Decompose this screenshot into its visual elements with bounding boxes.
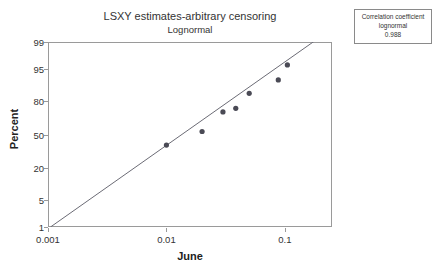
correlation-value: 0.988	[357, 31, 429, 40]
y-tick-mark	[44, 168, 48, 169]
y-tick-label: 5	[10, 194, 44, 205]
data-point	[199, 129, 204, 134]
probability-plot-page: LSXY estimates-arbitrary censoring Logno…	[0, 0, 443, 277]
y-tick-mark	[44, 101, 48, 102]
correlation-distribution: lognormal	[357, 22, 429, 31]
chart-subtitle: Lognormal	[48, 24, 332, 35]
chart-title: LSXY estimates-arbitrary censoring	[48, 10, 332, 22]
correlation-label: Correlation coefficient	[357, 13, 429, 22]
x-tick-labels: 0.0010.010.1	[48, 228, 332, 248]
y-axis-title: Percent	[8, 94, 20, 164]
x-tick-mark	[48, 228, 49, 232]
data-point	[220, 109, 225, 114]
fit-line-segment	[51, 42, 321, 227]
x-tick-mark	[166, 228, 167, 232]
y-tick-mark	[44, 69, 48, 70]
y-tick-label: 99	[10, 37, 44, 48]
x-tick-mark	[285, 228, 286, 232]
x-tick-label: 0.01	[157, 234, 176, 245]
data-point	[247, 91, 252, 96]
plot-canvas	[48, 42, 332, 227]
y-tick-mark	[44, 135, 48, 136]
data-point	[164, 142, 169, 147]
data-point	[276, 77, 281, 82]
y-tick-label: 1	[10, 222, 44, 233]
y-tick-mark	[44, 200, 48, 201]
x-tick-label: 0.001	[36, 234, 60, 245]
y-tick-label: 95	[10, 64, 44, 75]
y-tick-mark	[44, 42, 48, 43]
data-points	[164, 62, 290, 147]
y-tick-label: 20	[10, 162, 44, 173]
x-tick-label: 0.1	[278, 234, 291, 245]
correlation-coefficient-box: Correlation coefficient lognormal 0.988	[354, 9, 432, 44]
data-point	[285, 62, 290, 67]
data-point	[233, 106, 238, 111]
x-axis-title: June	[48, 250, 332, 262]
fit-line	[51, 42, 321, 227]
